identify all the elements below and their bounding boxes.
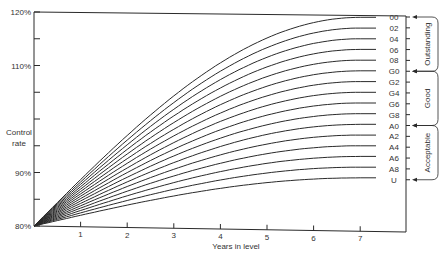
band-label-good: Good [423,89,432,109]
curve-00 [34,17,376,226]
series-label-04: 04 [390,35,399,44]
y-tick-label: 110% [11,62,31,71]
series-label-a8: A8 [389,165,399,174]
top-border [34,12,406,16]
series-label-02: 02 [390,24,399,33]
x-tick-label: 1 [78,230,83,239]
x-tick-label: 3 [172,231,177,240]
x-tick-label: 7 [358,234,363,243]
x-tick-label: 4 [218,232,223,241]
series-label-g2: G2 [389,78,400,87]
arrow-left-icon [412,124,417,128]
y-tick-label: 120% [11,8,31,17]
series-label-08: 08 [390,56,399,65]
y-tick-label: 80% [15,222,31,231]
series-labels: 0002040608G0G2G4G6G8A0A2A4A6A8U [389,13,410,185]
band-label-acceptable: Acceptable [423,132,432,172]
control-rate-chart: 80%90%110%120% 1234567 0002040608G0G2G4G… [0,0,444,253]
series-label-a6: A6 [389,154,399,163]
x-axis: 1234567 [34,222,406,244]
series-label-a2: A2 [389,132,399,141]
series-label-g0: G0 [389,67,400,76]
band-label-outstanding: Outstanding [423,23,432,66]
series-label-a0: A0 [389,122,399,131]
arrow-left-icon [412,15,417,19]
series-label-00: 00 [390,13,399,22]
curve-06 [34,49,376,226]
y-axis-title-line2: rate [12,139,26,148]
arrow-left-icon [412,69,417,73]
series-label-a4: A4 [389,143,399,152]
series-label-g6: G6 [389,100,400,109]
series-label-u: U [391,176,397,185]
rating-bands: OutstandingGoodAcceptable [412,15,438,182]
curve-04 [34,39,376,226]
x-axis-title: Years in level [212,242,260,251]
curve-series [34,17,376,226]
x-tick-label: 5 [265,233,270,242]
series-label-g8: G8 [389,111,400,120]
arrow-left-icon [412,178,417,182]
series-label-06: 06 [390,46,399,55]
y-tick-label: 90% [15,169,31,178]
x-tick-label: 6 [311,234,316,243]
curve-a8 [34,167,376,226]
series-label-g4: G4 [389,89,400,98]
x-tick-label: 2 [125,231,130,240]
curve-g6 [34,103,376,226]
y-axis-title-line1: Control [6,128,32,137]
y-axis: 80%90%110%120% [11,8,40,231]
